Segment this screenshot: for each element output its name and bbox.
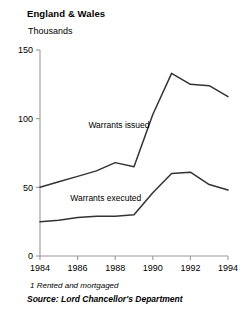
y-tick-label: 0 <box>28 251 33 261</box>
y-tick-label: 50 <box>23 183 33 193</box>
series-annotations: Warrants issuedWarrants executed <box>70 120 149 203</box>
chart-source: Source: Lord Chancellor's Department <box>27 294 183 304</box>
chart-plot-area: 050100150198419861988199019921994 Warran… <box>0 0 251 311</box>
x-tick-label: 1986 <box>68 263 88 273</box>
series-line <box>40 73 228 187</box>
x-tick-label: 1992 <box>180 263 200 273</box>
series-annotation-label: Warrants issued <box>88 120 149 130</box>
series-annotation-label: Warrants executed <box>70 193 141 203</box>
y-tick-label: 150 <box>18 45 33 55</box>
x-tick-label: 1984 <box>30 263 50 273</box>
axes-group: 050100150198419861988199019921994 <box>18 45 238 273</box>
x-tick-label: 1994 <box>218 263 238 273</box>
chart-footnote: 1 Rented and mortgaged <box>30 281 119 290</box>
x-tick-label: 1990 <box>143 263 163 273</box>
y-tick-label: 100 <box>18 114 33 124</box>
x-tick-label: 1988 <box>105 263 125 273</box>
chart-figure: England & Wales Thousands 05010015019841… <box>0 0 251 311</box>
